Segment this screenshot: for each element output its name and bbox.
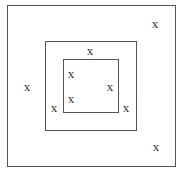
x-mark: x: [24, 80, 31, 93]
x-mark: x: [153, 140, 160, 153]
x-mark: x: [51, 101, 58, 114]
x-mark: x: [152, 17, 159, 30]
x-mark: x: [68, 67, 75, 80]
x-mark: x: [123, 101, 130, 114]
x-mark: x: [68, 92, 75, 105]
x-mark: x: [87, 44, 94, 57]
x-mark: x: [107, 80, 114, 93]
